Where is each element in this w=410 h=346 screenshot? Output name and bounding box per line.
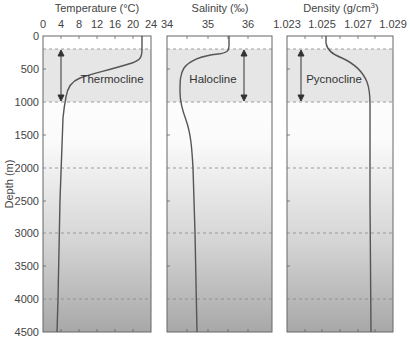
y-axis-label: Depth (m) [3,160,15,209]
halocline-label: Halocline [189,73,236,85]
y-tick-labels: 0 500 1000 1500 2000 2500 3000 3500 4000… [15,30,39,338]
svg-text:2000: 2000 [15,162,39,174]
svg-text:35: 35 [202,18,214,30]
ocean-profile-chart: Depth (m) 0 500 1000 1500 2000 2500 3000… [0,0,410,346]
svg-text:1000: 1000 [15,96,39,108]
svg-text:1.023: 1.023 [273,18,301,30]
density-x-ticks: 1.023 1.025 1.027 1.029 [273,18,407,30]
svg-text:4500: 4500 [15,326,39,338]
svg-text:1.027: 1.027 [344,18,372,30]
svg-text:24: 24 [145,18,157,30]
svg-text:8: 8 [76,18,82,30]
svg-text:34: 34 [161,18,173,30]
svg-text:1.025: 1.025 [308,18,336,30]
temperature-title: Temperature (°C) [55,2,139,14]
density-panel: Density (g/cm3) 1.023 1.025 1.027 1.029 … [273,1,407,332]
svg-text:1.029: 1.029 [379,18,407,30]
salinity-title: Salinity (‰) [192,2,249,14]
svg-text:4: 4 [58,18,64,30]
svg-text:36: 36 [242,18,254,30]
svg-text:20: 20 [127,18,139,30]
svg-text:3000: 3000 [15,227,39,239]
pycnocline-label: Pycnocline [306,73,362,85]
svg-text:2500: 2500 [15,195,39,207]
thermocline-label: Thermocline [80,73,143,85]
svg-text:0: 0 [40,18,46,30]
svg-text:12: 12 [91,18,103,30]
salinity-x-ticks: 34 35 36 [161,18,254,30]
svg-text:0: 0 [33,30,39,42]
svg-text:1500: 1500 [15,129,39,141]
svg-text:3500: 3500 [15,260,39,272]
density-title: Density (g/cm3) [303,1,378,14]
svg-text:4000: 4000 [15,293,39,305]
svg-text:500: 500 [21,63,39,75]
svg-text:16: 16 [109,18,121,30]
temperature-x-ticks: 0 4 8 12 16 20 24 [40,18,157,30]
salinity-panel: Salinity (‰) 34 35 36 Halocline [161,2,272,332]
temperature-panel: Temperature (°C) 0 4 8 12 16 20 24 [40,2,157,332]
